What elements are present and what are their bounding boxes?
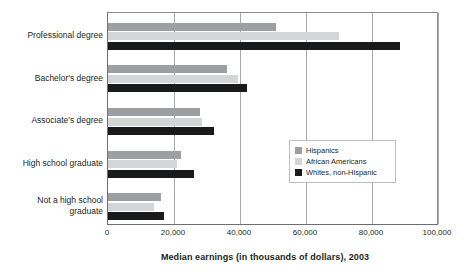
bar-chart: Professional degreeBachelor's degreeAsso… (0, 0, 470, 276)
legend-item-whites-non-hispanic: Whites, non-Hispanic (295, 167, 390, 178)
tick-label: 40,000 (227, 228, 251, 237)
bar (108, 42, 400, 50)
legend-label: Whites, non-Hispanic (306, 168, 377, 177)
tick-label: 80,000 (359, 228, 383, 237)
bar (108, 23, 276, 31)
bar (108, 32, 339, 40)
bar (108, 84, 247, 92)
bar (108, 170, 194, 178)
legend-swatch-icon (295, 169, 302, 176)
legend-swatch-icon (295, 147, 302, 154)
bar (108, 203, 154, 211)
legend-item-african-americans: African Americans (295, 156, 390, 167)
legend-item-hispanics: Hispanics (295, 145, 390, 156)
legend-label: African Americans (306, 157, 366, 166)
axis-title: Median earnings (in thousands of dollars… (0, 252, 470, 262)
bar (108, 151, 181, 159)
category-label: High school graduate (0, 158, 103, 169)
bar (108, 127, 214, 135)
category-label: Not a high schoolgraduate (0, 195, 103, 216)
bar (108, 118, 202, 126)
tick-label: 60,000 (293, 228, 317, 237)
bar (108, 193, 161, 201)
category-label: Associate's degree (0, 115, 103, 126)
bar (108, 65, 227, 73)
axis-title-text: Median earnings (in thousands of dollars… (161, 252, 369, 262)
bar-group (108, 108, 437, 135)
bar-group (108, 193, 437, 220)
tick-label: 20,000 (161, 228, 185, 237)
bar (108, 212, 164, 220)
plot-area (107, 12, 438, 225)
bar (108, 108, 200, 116)
tick-label: 0 (105, 228, 109, 237)
bar (108, 75, 238, 83)
tick-label: 100,000 (423, 228, 452, 237)
legend: Hispanics African Americans Whites, non-… (289, 140, 396, 183)
legend-swatch-icon (295, 158, 302, 165)
legend-label: Hispanics (306, 146, 339, 155)
bar-group (108, 23, 437, 50)
category-label: Bachelor's degree (0, 73, 103, 84)
category-axis-labels: Professional degreeBachelor's degreeAsso… (0, 12, 103, 225)
bar (108, 160, 177, 168)
category-label: Professional degree (0, 30, 103, 41)
gridline (438, 13, 439, 224)
bar-group (108, 65, 437, 92)
